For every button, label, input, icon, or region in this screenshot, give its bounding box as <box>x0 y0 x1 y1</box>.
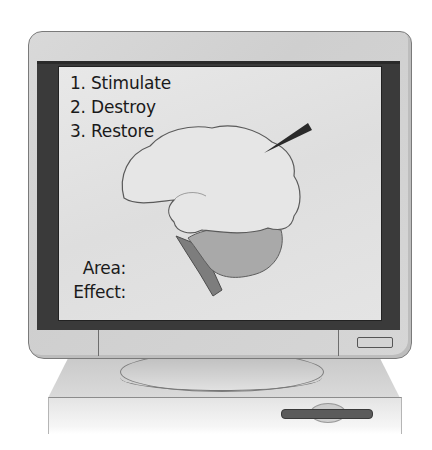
bezel-divider-left <box>98 330 99 356</box>
area-label: Area: <box>66 256 126 280</box>
floppy-drive-slot[interactable] <box>281 409 373 419</box>
cerebrum <box>122 126 300 233</box>
monitor-stand-rim <box>120 364 322 391</box>
bezel-divider-right <box>338 330 339 356</box>
effect-label: Effect: <box>66 280 126 304</box>
probe-icon <box>264 123 312 153</box>
power-button[interactable] <box>357 337 393 348</box>
procedure-stimulate[interactable]: 1. Stimulate <box>70 71 171 95</box>
brain-illustration <box>116 118 316 300</box>
procedure-destroy[interactable]: 2. Destroy <box>70 95 171 119</box>
